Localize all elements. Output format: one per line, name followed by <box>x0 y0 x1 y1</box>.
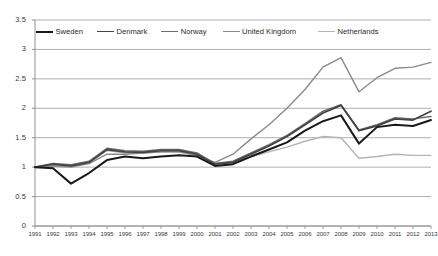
series-line-united-kingdom <box>35 58 431 167</box>
y-tick-label: 3.5 <box>2 16 26 24</box>
legend-item-sweden: Sweden <box>36 27 83 36</box>
legend-swatch-line <box>318 31 335 32</box>
legend-label: Netherlands <box>338 27 379 36</box>
y-tick-label: 2 <box>2 104 26 112</box>
legend-swatch-line <box>36 31 53 33</box>
x-tick-label: 2013 <box>420 231 438 238</box>
legend-swatch-line <box>161 31 178 32</box>
legend-swatch-line <box>223 31 240 32</box>
legend-item-denmark: Denmark <box>97 27 147 36</box>
y-tick-label: 1.5 <box>2 134 26 142</box>
legend-label: Norway <box>181 27 207 36</box>
legend-label: United Kingdom <box>242 27 296 36</box>
line-chart: 00.511.522.533.5 19911992199319941995199… <box>0 0 438 256</box>
series-line-denmark <box>35 105 431 167</box>
y-tick-label: 3 <box>2 45 26 53</box>
legend-item-netherlands: Netherlands <box>318 27 378 36</box>
chart-plot-area <box>0 0 438 256</box>
legend-label: Sweden <box>56 27 83 36</box>
legend-item-norway: Norway <box>161 27 206 36</box>
legend-swatch-line <box>97 31 114 32</box>
y-tick-label: 0.5 <box>2 193 26 201</box>
y-tick-label: 0 <box>2 222 26 230</box>
y-tick-label: 2.5 <box>2 75 26 83</box>
chart-legend: SwedenDenmarkNorwayUnited KingdomNetherl… <box>36 27 379 36</box>
legend-label: Denmark <box>116 27 147 36</box>
y-tick-label: 1 <box>2 163 26 171</box>
legend-item-united-kingdom: United Kingdom <box>223 27 297 36</box>
